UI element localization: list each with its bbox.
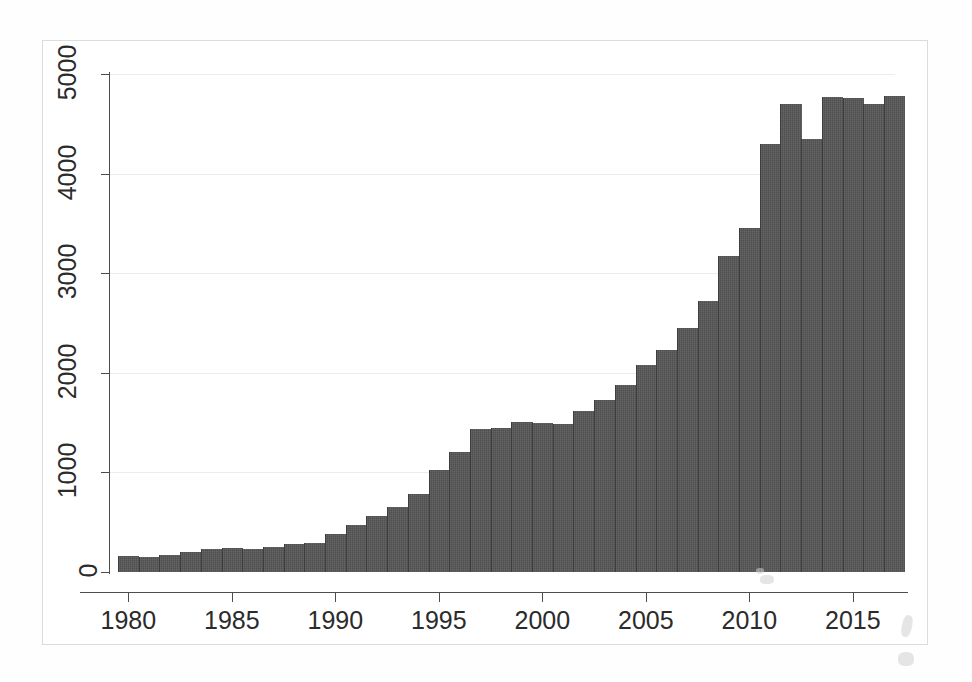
bar [780, 104, 801, 572]
bar [573, 411, 594, 572]
bar [884, 96, 905, 572]
bar [801, 139, 822, 572]
scan-speckle [756, 568, 764, 574]
bar [760, 144, 781, 572]
bar [429, 470, 450, 572]
bar [263, 547, 284, 572]
scan-speckle [898, 652, 914, 666]
scan-speckle [760, 575, 774, 584]
bar [656, 350, 677, 572]
bar [698, 301, 719, 572]
bar [242, 549, 263, 572]
bar [449, 452, 470, 572]
bar [532, 423, 553, 572]
bar [180, 552, 201, 572]
bar [677, 328, 698, 572]
bar [366, 516, 387, 572]
bar [615, 385, 636, 572]
bar [118, 556, 139, 572]
bar [222, 548, 243, 572]
bar [284, 544, 305, 572]
bar [553, 424, 574, 572]
bar [387, 507, 408, 572]
bar [139, 557, 160, 572]
bar [325, 534, 346, 572]
bar [491, 428, 512, 572]
bar [408, 494, 429, 572]
figure-page: 0100020003000400050001980198519901995200… [0, 0, 972, 682]
bar [843, 98, 864, 572]
bar [863, 104, 884, 572]
bar [822, 97, 843, 572]
bar-series [0, 0, 972, 682]
bar [304, 543, 325, 572]
bar [201, 549, 222, 572]
bar [346, 525, 367, 572]
bar [718, 256, 739, 572]
bar [594, 400, 615, 572]
bar [470, 429, 491, 572]
bar [511, 422, 532, 572]
bar [159, 555, 180, 572]
bar [636, 365, 657, 572]
bar [739, 228, 760, 572]
